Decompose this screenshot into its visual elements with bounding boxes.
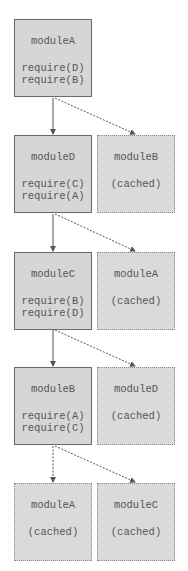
module-requires: require(A) require(C): [15, 410, 91, 434]
module-title: moduleA: [98, 268, 174, 280]
module-requires: require(D) require(B): [15, 62, 91, 86]
module-requires: require(C) require(A): [15, 178, 91, 202]
require-line: require(D): [15, 62, 91, 74]
module-title: moduleB: [15, 383, 91, 395]
module-title: moduleA: [15, 499, 91, 511]
require-line: require(B): [15, 74, 91, 86]
module-requires: require(B) require(D): [15, 295, 91, 319]
require-line: require(A): [15, 410, 91, 422]
module-title: moduleD: [98, 383, 174, 395]
require-line: require(B): [15, 295, 91, 307]
cached-label: (cached): [15, 526, 91, 538]
cached-box-d: moduleD (cached): [97, 367, 175, 445]
cached-label: (cached): [98, 178, 174, 190]
require-line: require(D): [15, 307, 91, 319]
require-line: require(C): [15, 178, 91, 190]
cached-box-a: moduleA (cached): [97, 252, 175, 330]
module-box-d: moduleD require(C) require(A): [14, 135, 92, 213]
module-box-a: moduleA require(D) require(B): [14, 19, 92, 97]
module-box-b: moduleB require(A) require(C): [14, 367, 92, 445]
cached-label: (cached): [98, 410, 174, 422]
module-title: moduleD: [15, 151, 91, 163]
cached-label: (cached): [98, 295, 174, 307]
cached-box-b: moduleB (cached): [97, 135, 175, 213]
cached-box-c-final: moduleC (cached): [97, 483, 175, 561]
require-line: require(C): [15, 422, 91, 434]
module-title: moduleB: [98, 151, 174, 163]
module-title: moduleC: [15, 268, 91, 280]
require-line: require(A): [15, 190, 91, 202]
module-title: moduleC: [98, 499, 174, 511]
module-box-c: moduleC require(B) require(D): [14, 252, 92, 330]
module-title: moduleA: [15, 35, 91, 47]
cached-box-a-final: moduleA (cached): [14, 483, 92, 561]
cached-label: (cached): [98, 526, 174, 538]
